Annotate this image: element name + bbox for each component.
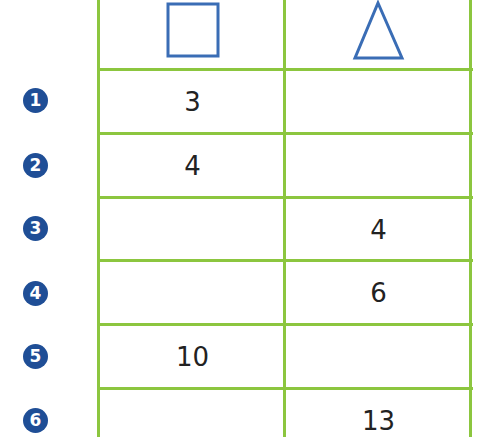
cell-square-row-1: 3	[101, 71, 284, 132]
cell-triangle-row-1	[287, 71, 470, 132]
cell-square-row-6	[101, 390, 284, 437]
row-number-badge: 4	[23, 281, 48, 306]
cell-triangle-row-5	[287, 326, 470, 387]
cell-square-row-3	[101, 199, 284, 260]
cell-triangle-row-4: 6	[287, 262, 470, 323]
row-number-badge: 2	[23, 153, 48, 178]
row-number-badge: 5	[23, 344, 48, 369]
row-number-badge: 3	[23, 216, 48, 241]
grid-line-left	[97, 0, 100, 437]
row-number-badge: 6	[23, 408, 48, 433]
cell-triangle-row-6: 13	[287, 390, 470, 437]
cell-square-row-5: 10	[101, 326, 284, 387]
cell-triangle-row-3: 4	[287, 199, 470, 260]
cell-square-row-4	[101, 262, 284, 323]
square-icon	[165, 1, 221, 59]
cell-square-row-2: 4	[101, 135, 284, 196]
cell-triangle-row-2	[287, 135, 470, 196]
row-number-badge: 1	[23, 88, 48, 113]
triangle-icon	[352, 0, 406, 62]
